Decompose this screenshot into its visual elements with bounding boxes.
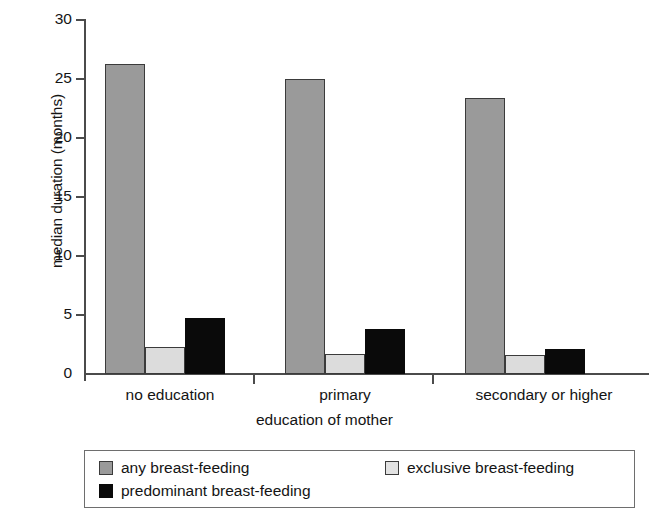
- x-tick-mark-2: [432, 375, 434, 384]
- bar-predominant-group-1: [365, 329, 405, 374]
- x-category-label-secondary-or-higher: secondary or higher: [444, 386, 644, 404]
- legend-label-predominant: predominant breast-feeding: [121, 482, 311, 500]
- legend-label-any: any breast-feeding: [121, 459, 249, 477]
- bar-any-group-2: [465, 98, 505, 374]
- bar-exclusive-group-2: [505, 355, 545, 374]
- legend-item-exclusive-breast-feeding: exclusive breast-feeding: [385, 459, 574, 477]
- bar-any-group-1: [285, 79, 325, 374]
- legend-label-exclusive: exclusive breast-feeding: [407, 459, 574, 477]
- legend-item-predominant-breast-feeding: predominant breast-feeding: [99, 482, 311, 500]
- x-category-label-no-education: no education: [85, 386, 255, 404]
- bar-exclusive-group-0: [145, 347, 185, 374]
- bar-exclusive-group-1: [325, 354, 365, 374]
- bar-chart-figure: median duration (months) 30 25 20 15 10 …: [0, 0, 649, 512]
- bar-predominant-group-2: [545, 349, 585, 374]
- bar-any-group-0: [105, 64, 145, 374]
- chart-legend: any breast-feeding exclusive breast-feed…: [84, 450, 635, 508]
- x-category-label-primary: primary: [265, 386, 425, 404]
- plot-area: [0, 0, 649, 375]
- legend-swatch-predominant-icon: [99, 484, 113, 498]
- bar-predominant-group-0: [185, 318, 225, 374]
- x-tick-mark-1: [253, 375, 255, 384]
- legend-swatch-exclusive-icon: [385, 461, 399, 475]
- legend-item-any-breast-feeding: any breast-feeding: [99, 459, 249, 477]
- legend-swatch-any-icon: [99, 461, 113, 475]
- x-axis-title: education of mother: [0, 411, 649, 429]
